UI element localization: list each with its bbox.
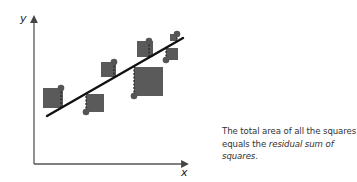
caption-line-2-prefix: equals the (222, 139, 269, 149)
data-point (111, 59, 118, 66)
residual-square (134, 67, 163, 96)
data-point (146, 38, 153, 45)
y-axis-label: y (20, 12, 27, 25)
caption-line-2: equals the residual sum of squares. (222, 138, 357, 163)
caption-line-1: The total area of all the squares (222, 125, 357, 138)
data-point (174, 31, 181, 38)
x-axis-label: x (181, 166, 188, 179)
data-point (131, 93, 138, 100)
residual-squares (43, 34, 178, 112)
caption-line-2-suffix: . (255, 151, 258, 161)
data-point (163, 57, 170, 64)
residual-square (86, 94, 104, 112)
data-point (58, 85, 65, 92)
data-point (83, 109, 90, 116)
caption: The total area of all the squares equals… (222, 125, 357, 163)
